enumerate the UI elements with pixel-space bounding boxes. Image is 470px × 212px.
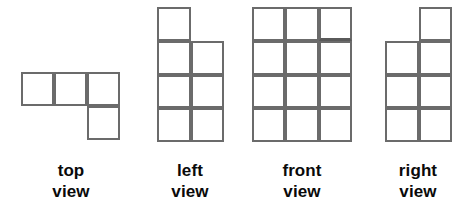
grid-top-view: [21, 72, 120, 140]
grid-cell: [191, 41, 225, 75]
grid-cell: [419, 108, 453, 142]
label-line-primary: right: [358, 160, 470, 181]
grid-cell: [157, 7, 191, 41]
label-left-view: leftview: [130, 160, 250, 202]
grid-cell: [319, 75, 352, 109]
grid-right-view: [385, 7, 452, 142]
label-front-view: frontview: [242, 160, 362, 202]
grid-left-view: [157, 7, 224, 142]
grid-cell: [191, 75, 225, 109]
orthographic-views-figure: topviewleftviewfrontviewrightview: [0, 0, 470, 212]
grid-cell: [191, 108, 225, 142]
grid-front-view: [252, 7, 352, 142]
grid-cell: [285, 75, 318, 109]
grid-cell: [319, 7, 352, 41]
grid-cell: [54, 72, 87, 106]
grid-cell: [419, 7, 453, 41]
label-line-secondary: view: [11, 181, 131, 202]
grid-cell: [285, 108, 318, 142]
grid-cell: [385, 75, 419, 109]
grid-cell: [419, 75, 453, 109]
grid-cell: [21, 72, 54, 106]
label-right-view: rightview: [358, 160, 470, 202]
grid-cell: [419, 41, 453, 75]
grid-cell: [157, 41, 191, 75]
grid-cell: [87, 106, 120, 140]
grid-cell: [252, 7, 285, 41]
label-line-secondary: view: [130, 181, 250, 202]
label-line-primary: left: [130, 160, 250, 181]
grid-cell: [285, 41, 318, 75]
grid-cell: [319, 41, 352, 75]
grid-cell: [252, 41, 285, 75]
grid-cell: [385, 41, 419, 75]
grid-cell: [252, 75, 285, 109]
label-line-secondary: view: [242, 181, 362, 202]
grid-cell: [157, 108, 191, 142]
label-line-primary: top: [11, 160, 131, 181]
grid-cell: [319, 108, 352, 142]
grid-cell: [87, 72, 120, 106]
grid-cell: [252, 108, 285, 142]
grid-cell: [285, 7, 318, 41]
label-line-secondary: view: [358, 181, 470, 202]
label-line-primary: front: [242, 160, 362, 181]
label-top-view: topview: [11, 160, 131, 202]
grid-cell: [385, 108, 419, 142]
grid-cell: [157, 75, 191, 109]
